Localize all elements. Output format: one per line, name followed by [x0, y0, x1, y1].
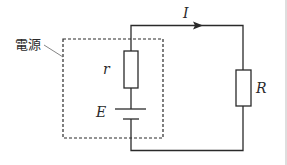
load-resistor-R: [236, 70, 251, 106]
top-wire: [131, 26, 243, 71]
load-resistance-label: R: [255, 80, 267, 96]
power-source-box: [63, 39, 163, 138]
internal-resistor-r: [124, 51, 138, 88]
circuit-diagram: 電源 I r E R: [0, 0, 287, 165]
current-label: I: [182, 5, 189, 21]
emf-label: E: [95, 104, 106, 120]
bottom-wire: [131, 106, 243, 151]
circuit-wires: [131, 26, 243, 151]
battery-icon: [115, 109, 146, 119]
power-source-leader-line: [44, 45, 63, 57]
power-source-label: 電源: [15, 37, 41, 52]
internal-resistance-label: r: [103, 61, 111, 77]
